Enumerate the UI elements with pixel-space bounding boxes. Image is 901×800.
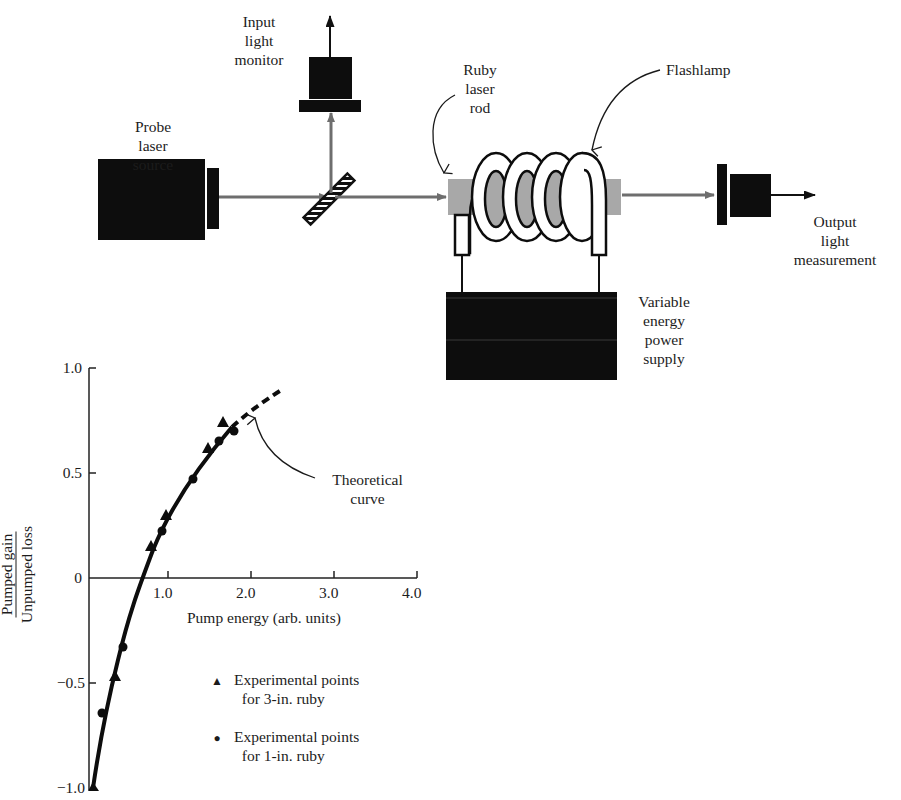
y-tick-0-5: 0.5 [52,464,82,482]
y-axis-label-denominator: Unpumped loss [18,526,35,623]
variable-power-supply [446,292,617,380]
y-tick-neg-1: −1.0 [35,779,85,797]
theoretical-curve-label: Theoretical curve [315,470,420,508]
y-axis-label: Pumped gain Unpumped loss [0,495,36,655]
probe-laser-label: Probe laser source [118,117,188,174]
input-monitor-label: Input light monitor [223,12,295,69]
y-tick-neg-0-5: −0.5 [35,674,85,692]
x-tick-2: 2.0 [236,584,255,602]
ruby-rod-pointer [433,95,455,173]
y-tick-1: 1.0 [52,359,82,377]
output-measurement-label: Output light measurement [775,212,895,269]
x-tick-3: 3.0 [319,584,338,602]
y-axis-label-numerator: Pumped gain [0,532,17,617]
flashlamp-helix [455,153,606,255]
flashlamp-pointer [592,70,660,150]
triangle-marker-icon: ▲ [210,672,224,691]
x-tick-4: 4.0 [402,584,421,602]
y-tick-0: 0 [52,569,82,587]
x-tick-1: 1.0 [153,584,172,602]
input-light-monitor [299,16,361,112]
theoretical-curve-dashed [232,389,283,427]
beam-splitter [304,174,355,225]
theoretical-curve-pointer [255,418,315,478]
legend-label-1in: Experimental points for 1-in. ruby [234,727,359,765]
power-supply-label: Variable energy power supply [625,292,703,368]
series-3in-ruby [88,416,229,791]
x-axis-label: Pump energy (arb. units) [187,609,341,627]
circle-marker-icon: ● [210,729,224,748]
ruby-rod-label: Ruby laser rod [455,60,505,117]
flashlamp-label: Flashlamp [666,60,731,79]
legend-label-3in: Experimental points for 3-in. ruby [234,670,359,708]
